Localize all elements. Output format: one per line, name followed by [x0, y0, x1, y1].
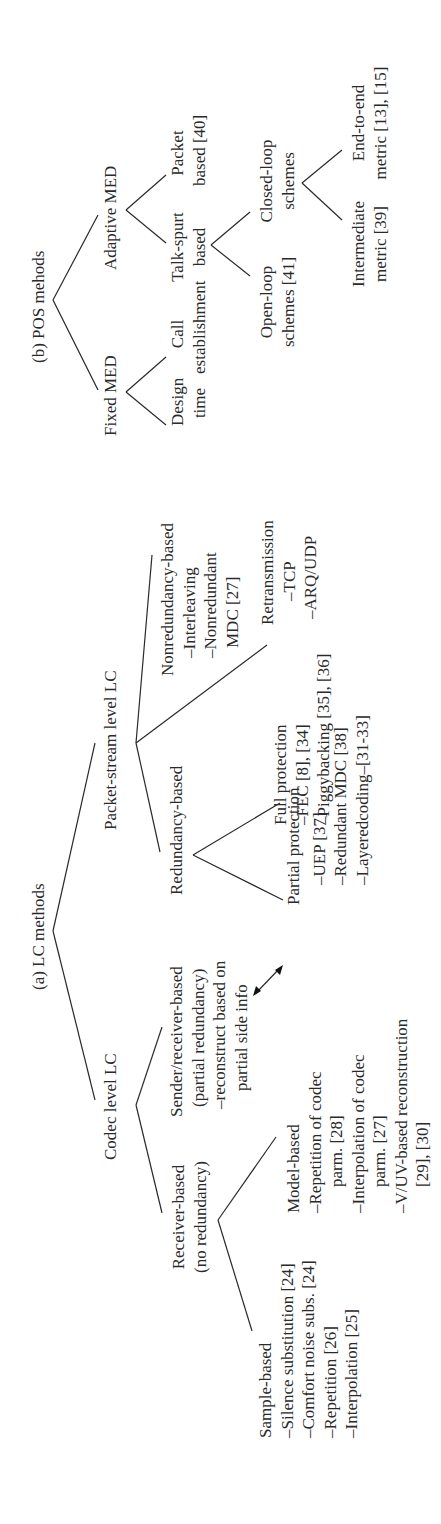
- diagram-canvas: (a) LC methods Packet-stream level LC Co…: [0, 0, 441, 1524]
- pos-methods-title: (b) POS mehods: [28, 251, 50, 363]
- lc-methods-title: (a) LC methods: [28, 883, 50, 990]
- receiver-based-node: Receiver-based (no redundancy): [168, 1161, 211, 1273]
- end-to-end-metric-node: End-to-end metric [13], [15]: [348, 62, 391, 184]
- call-establishment-node: Call establishment: [167, 294, 210, 374]
- fixed-med-node: Fixed MED: [100, 355, 122, 436]
- design-time-node: Design time: [167, 380, 210, 426]
- nonredundancy-based-node: Nonredundancy-based –Interleaving –Nonre…: [157, 523, 243, 676]
- sample-based-node: Sample-based –Silence substitution [24] …: [255, 1260, 363, 1438]
- retransmission-node: Retransmission –TCP –ARQ/UDP: [257, 520, 322, 625]
- packet-stream-level-lc: Packet-stream level LC: [100, 670, 122, 830]
- redundancy-based-node: Redundancy-based: [166, 766, 188, 895]
- open-loop-schemes-node: Open-loop schemes [41]: [256, 252, 299, 352]
- packet-based-node: Packet based [40]: [167, 120, 210, 186]
- model-based-node: Model-based –Repetition of codec parm. […: [283, 1019, 434, 1213]
- full-protection-node: Full protection –FEC [8], [34] –Piggybac…: [270, 654, 335, 825]
- closed-loop-schemes-node: Closed-loop schemes: [256, 138, 299, 224]
- intermediate-metric-node: Intermediate metric [39]: [348, 191, 391, 297]
- double-arrow-icon: [253, 965, 283, 996]
- sender-receiver-based-node: Sender/receiver-based (partial redundanc…: [166, 961, 252, 1117]
- adaptive-med-node: Adaptive MED: [100, 166, 122, 270]
- talk-spurt-based-node: Talk-spurt based: [167, 208, 210, 286]
- codec-level-lc: Codec level LC: [100, 1053, 122, 1160]
